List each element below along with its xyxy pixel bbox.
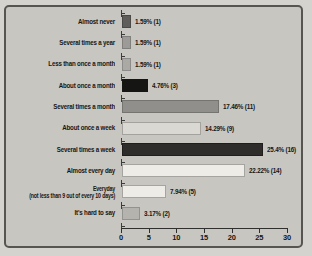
page: Almost never 1.59% (1) Several times a y… <box>0 0 312 256</box>
chart-frame: Almost never 1.59% (1) Several times a y… <box>4 5 303 248</box>
value-label: 22.22% (14) <box>249 164 281 177</box>
chart-row: It's hard to say 3.17% (2) <box>6 207 301 220</box>
x-axis-tick-label: 20 <box>222 233 242 242</box>
bar <box>122 100 219 113</box>
category-label: Several times a year <box>19 36 115 49</box>
chart-row: Several times a year 1.59% (1) <box>6 36 301 49</box>
bar <box>122 143 263 156</box>
category-tick <box>121 138 126 145</box>
category-tick <box>121 31 126 38</box>
category-label: Several times a week <box>19 143 115 156</box>
category-tick <box>121 180 126 187</box>
frequency-bar-chart: Almost never 1.59% (1) Several times a y… <box>6 7 301 246</box>
x-axis-tick-label: 0 <box>111 233 131 242</box>
category-tick <box>121 159 126 166</box>
chart-row: Almost every day 22.22% (14) <box>6 164 301 177</box>
category-label: Several times a month <box>19 100 115 113</box>
value-label: 1.59% (1) <box>135 36 161 49</box>
category-tick <box>121 202 126 209</box>
category-label: Less than once a month <box>19 58 115 71</box>
category-label: Almost every day <box>19 164 115 177</box>
chart-row: Several times a month 17.46% (11) <box>6 100 301 113</box>
x-axis-tick-label: 25 <box>249 233 269 242</box>
category-label: Everyday (not less than 9 out of every 1… <box>26 185 115 198</box>
value-label: 17.46% (11) <box>223 100 255 113</box>
category-tick <box>121 53 126 60</box>
chart-row: Almost never 1.59% (1) <box>6 15 301 28</box>
category-tick <box>121 117 126 124</box>
bar <box>122 122 201 135</box>
x-axis-tick-label: 30 <box>277 233 297 242</box>
value-label: 1.59% (1) <box>135 58 161 71</box>
value-label: 25.4% (16) <box>267 143 296 156</box>
category-label: About once a month <box>19 79 115 92</box>
chart-row: Less than once a month 1.59% (1) <box>6 58 301 71</box>
chart-row: Everyday (not less than 9 out of every 1… <box>6 185 301 198</box>
value-label: 3.17% (2) <box>144 207 170 220</box>
value-label: 7.94% (5) <box>170 185 196 198</box>
x-axis-tick-label: 15 <box>194 233 214 242</box>
x-axis-tick-label: 10 <box>166 233 186 242</box>
category-tick <box>121 95 126 102</box>
value-label: 1.59% (1) <box>135 15 161 28</box>
value-label: 14.29% (9) <box>205 122 234 135</box>
category-tick <box>121 74 126 81</box>
category-label: Almost never <box>19 15 115 28</box>
category-label: It's hard to say <box>19 207 115 220</box>
value-label: 4.76% (3) <box>152 79 178 92</box>
category-tick <box>121 10 126 17</box>
chart-row: About once a month 4.76% (3) <box>6 79 301 92</box>
chart-row: About once a week 14.29% (9) <box>6 122 301 135</box>
x-axis-tick-label: 5 <box>139 233 159 242</box>
chart-row: Several times a week 25.4% (16) <box>6 143 301 156</box>
category-label: About once a week <box>19 122 115 135</box>
bar <box>122 164 245 177</box>
bar <box>122 185 166 198</box>
